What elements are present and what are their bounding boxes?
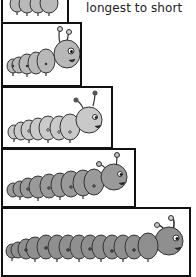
caterpillar-box-5: [1, 207, 191, 277]
caterpillar-1-image: [3, 0, 67, 22]
caterpillar-box-3: [1, 86, 113, 149]
caterpillar-box-4: [1, 148, 136, 208]
caterpillar-box-2: [1, 22, 82, 87]
caterpillar-3-image: [3, 88, 111, 147]
caterpillar-2-image: [3, 24, 80, 85]
caterpillar-5-image: [3, 209, 189, 275]
instruction-text: longest to short: [86, 1, 182, 15]
caterpillar-box-1: [1, 0, 69, 24]
caterpillar-4-image: [3, 150, 134, 206]
